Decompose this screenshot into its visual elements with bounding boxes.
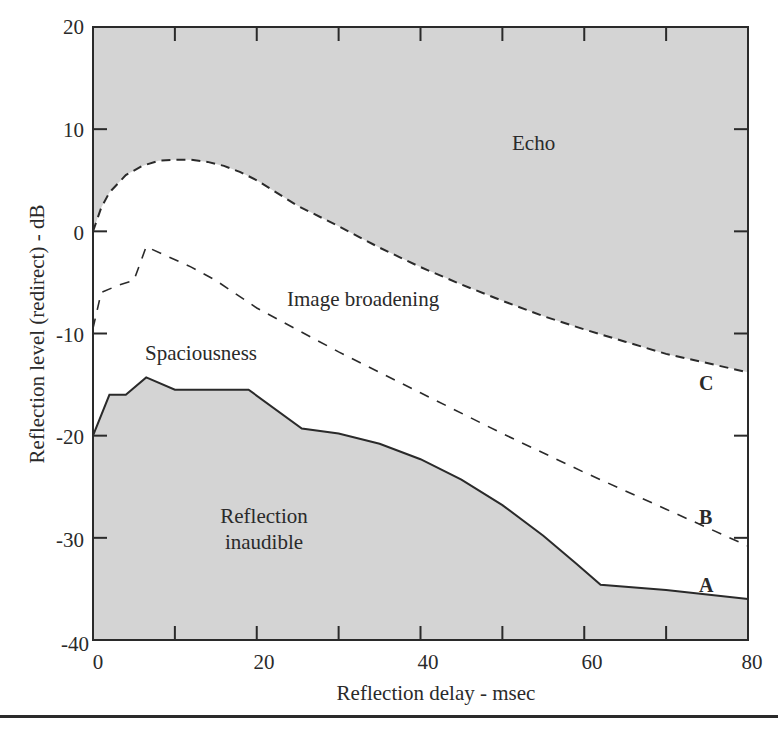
y-tick-neg10: -10 bbox=[56, 323, 84, 347]
y-tick-10: 10 bbox=[63, 118, 84, 142]
bottom-rule bbox=[0, 715, 778, 718]
x-tick-labels: 0 20 40 60 80 bbox=[93, 650, 763, 674]
curve-c-label: C bbox=[699, 372, 713, 394]
y-tick-neg30: -30 bbox=[56, 528, 84, 552]
curve-b-label: B bbox=[699, 506, 712, 528]
x-tick-60: 60 bbox=[582, 650, 603, 674]
image-broadening-label: Image broadening bbox=[287, 287, 440, 311]
echo-label: Echo bbox=[512, 131, 555, 155]
y-axis-title: Reflection level (redirect) - dB bbox=[25, 205, 49, 464]
y-tick-labels: 20 10 0 -10 -20 -30 -40 bbox=[56, 15, 89, 656]
spaciousness-label: Spaciousness bbox=[145, 341, 257, 365]
inaudible-region bbox=[93, 377, 748, 640]
chart: 20 10 0 -10 -20 -30 -40 0 20 40 60 80 Re… bbox=[0, 0, 778, 731]
x-axis-title: Reflection delay - msec bbox=[337, 681, 536, 705]
plot-area bbox=[93, 27, 748, 640]
x-tick-40: 40 bbox=[418, 650, 439, 674]
x-tick-20: 20 bbox=[254, 650, 275, 674]
reflection-inaudible-label-line2: inaudible bbox=[225, 530, 303, 554]
y-tick-20: 20 bbox=[63, 15, 84, 39]
x-tick-0: 0 bbox=[93, 650, 104, 674]
y-tick-neg20: -20 bbox=[56, 425, 84, 449]
curve-a-label: A bbox=[699, 574, 714, 596]
echo-region bbox=[93, 27, 748, 372]
reflection-inaudible-label-line1: Reflection bbox=[220, 504, 308, 528]
x-tick-80: 80 bbox=[742, 650, 763, 674]
y-tick-0: 0 bbox=[74, 221, 85, 245]
y-tick-neg40: -40 bbox=[61, 632, 89, 656]
